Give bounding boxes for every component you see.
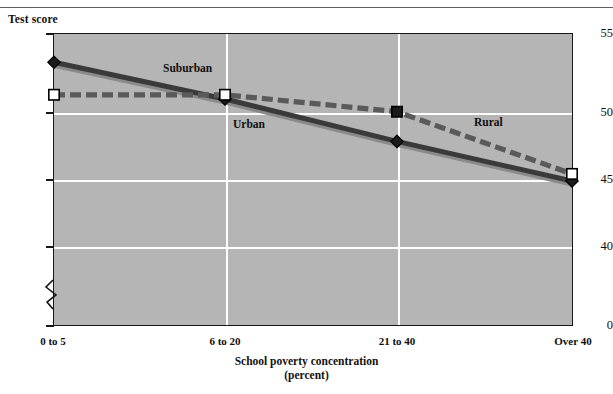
plot-area (53, 33, 573, 326)
y-tick-label-55: 55 (572, 26, 613, 41)
chart-figure: Test score 55 50 45 40 0 0 to 5 6 to 20 … (0, 0, 613, 394)
y-tick-mark-45 (46, 179, 54, 181)
y-tick-mark-40 (46, 246, 54, 248)
y-tick-mark-50 (46, 112, 54, 114)
x-tick-label-6to20: 6 to 20 (185, 335, 265, 347)
header-rule (0, 7, 613, 8)
y-axis-title: Test score (8, 13, 58, 25)
y-tick-label-50: 50 (572, 105, 613, 120)
x-tick-label-0to5: 0 to 5 (13, 335, 93, 347)
x-tick-label-over40: Over 40 (533, 335, 613, 347)
y-tick-label-40: 40 (572, 239, 613, 254)
series-label-rural: Rural (474, 116, 503, 128)
gridline-50 (54, 113, 572, 115)
series-label-suburban: Suburban (163, 62, 212, 74)
y-tick-label-45: 45 (572, 172, 613, 187)
gridline-x-6to20 (226, 34, 228, 325)
y-tick-label-0: 0 (572, 318, 613, 333)
x-axis-title: School poverty concentration (percent) (0, 355, 613, 382)
y-tick-mark-55 (46, 33, 54, 35)
y-tick-mark-0 (46, 325, 54, 327)
series-label-urban: Urban (233, 118, 265, 130)
x-axis-title-line1: School poverty concentration (0, 355, 613, 369)
gridline-40 (54, 247, 572, 249)
x-axis-title-line2: (percent) (0, 369, 613, 383)
x-tick-label-21to40: 21 to 40 (357, 335, 437, 347)
gridline-45 (54, 180, 572, 182)
gridline-x-21to40 (398, 34, 400, 325)
